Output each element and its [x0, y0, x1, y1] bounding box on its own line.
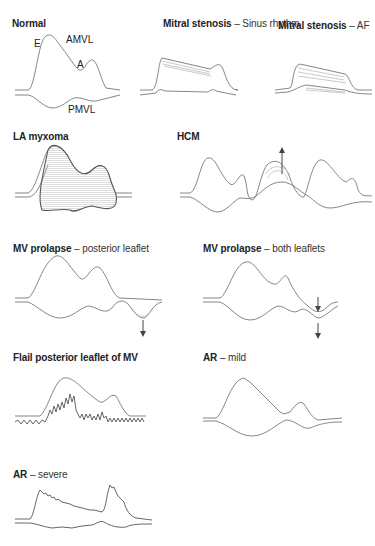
trace-mvp-posterior: [15, 256, 162, 334]
trace-ar-mild: [203, 378, 342, 436]
trace-mvp-both: [203, 262, 338, 336]
trace-hcm: [180, 150, 372, 212]
mmode-traces: [0, 0, 375, 546]
trace-ar-severe: [15, 485, 152, 528]
trace-la-myxoma: [15, 145, 132, 211]
trace-flail: [15, 378, 146, 424]
trace-ms-af: [275, 64, 372, 94]
trace-normal: [15, 35, 120, 108]
trace-ms-sinus: [140, 58, 238, 95]
